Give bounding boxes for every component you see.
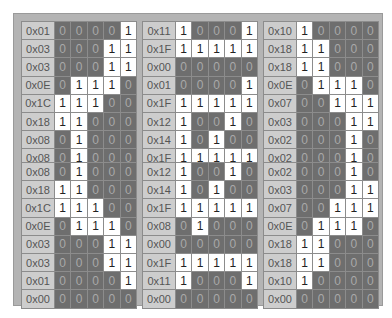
bit-cell: 1 <box>176 95 191 112</box>
bit-cell: 1 <box>242 40 257 57</box>
bit-cell: 1 <box>297 236 312 253</box>
bit-cell: 0 <box>330 131 345 148</box>
bit-cell: 0 <box>297 218 312 235</box>
bit-cell: 0 <box>55 77 70 94</box>
row-hex-label: 0x10 <box>264 272 296 289</box>
row-hex-label: 0x00 <box>264 290 296 307</box>
bit-cell: 0 <box>121 199 136 216</box>
bit-cell: 0 <box>242 113 257 130</box>
bit-cell: 1 <box>330 199 345 216</box>
bit-cell: 0 <box>88 254 103 271</box>
row-hex-label: 0x08 <box>22 131 54 148</box>
bit-cell: 1 <box>209 254 224 271</box>
row-hex-label: 0x12 <box>143 113 175 130</box>
bit-cell: 1 <box>71 113 86 130</box>
row-hex-label: 0x01 <box>143 77 175 94</box>
bit-cell: 0 <box>192 236 207 253</box>
bit-cell: 0 <box>225 77 240 94</box>
bit-cell: 0 <box>209 163 224 180</box>
bit-cell: 1 <box>192 254 207 271</box>
bit-cell: 0 <box>313 290 328 307</box>
bit-cell: 0 <box>363 131 378 148</box>
row-hex-label: 0x11 <box>143 272 175 289</box>
bit-cell: 0 <box>55 254 70 271</box>
bit-cell: 0 <box>297 77 312 94</box>
bit-cell: 1 <box>71 95 86 112</box>
bit-cell: 0 <box>176 236 191 253</box>
bit-cell: 0 <box>104 290 119 307</box>
bit-cell: 0 <box>55 272 70 289</box>
bit-cell: 1 <box>363 95 378 112</box>
bit-cell: 0 <box>192 163 207 180</box>
row-hex-label: 0x1F <box>143 254 175 271</box>
bit-cell: 0 <box>363 22 378 39</box>
bit-cell: 1 <box>330 77 345 94</box>
bit-cell: 0 <box>313 131 328 148</box>
row-hex-label: 0x08 <box>143 218 175 235</box>
bit-cell: 1 <box>192 218 207 235</box>
row-hex-label: 0x00 <box>143 58 175 75</box>
bit-cell: 1 <box>225 163 240 180</box>
bit-cell: 1 <box>71 163 86 180</box>
row-hex-label: 0x14 <box>143 131 175 148</box>
bit-cell: 0 <box>313 163 328 180</box>
bit-cell: 0 <box>330 113 345 130</box>
row-hex-label: 0x03 <box>22 254 54 271</box>
bit-cell: 1 <box>176 131 191 148</box>
bit-cell: 0 <box>363 163 378 180</box>
bit-cell: 1 <box>71 199 86 216</box>
bit-cell: 1 <box>297 58 312 75</box>
bit-cell: 1 <box>176 199 191 216</box>
glyph-panel-1: 0x01000010x03000110x03000110x0E011100x1C… <box>21 21 137 168</box>
bit-cell: 1 <box>176 181 191 198</box>
bit-cell: 0 <box>192 131 207 148</box>
row-hex-label: 0x00 <box>143 290 175 307</box>
bit-cell: 0 <box>209 113 224 130</box>
row-hex-label: 0x18 <box>264 236 296 253</box>
row-hex-label: 0x03 <box>22 236 54 253</box>
row-hex-label: 0x1F <box>143 95 175 112</box>
bit-cell: 0 <box>313 113 328 130</box>
bit-cell: 0 <box>104 272 119 289</box>
row-hex-label: 0x14 <box>143 181 175 198</box>
bit-cell: 0 <box>121 163 136 180</box>
bit-cell: 0 <box>71 22 86 39</box>
bit-cell: 0 <box>104 181 119 198</box>
bit-cell: 0 <box>313 22 328 39</box>
glyph-panel-3: 0x10100000x18110000x18110000x0E011100x07… <box>263 21 379 168</box>
bit-cell: 1 <box>363 181 378 198</box>
bit-cell: 0 <box>313 272 328 289</box>
bit-cell: 0 <box>225 58 240 75</box>
bit-cell: 0 <box>330 272 345 289</box>
bit-cell: 0 <box>346 254 361 271</box>
bit-cell: 0 <box>121 181 136 198</box>
bit-cell: 0 <box>71 236 86 253</box>
bit-cell: 0 <box>209 77 224 94</box>
bit-cell: 1 <box>121 236 136 253</box>
bit-cell: 1 <box>225 95 240 112</box>
bit-cell: 0 <box>346 40 361 57</box>
bit-cell: 0 <box>192 181 207 198</box>
bit-cell: 0 <box>55 131 70 148</box>
bit-cell: 0 <box>88 58 103 75</box>
row-hex-label: 0x02 <box>264 131 296 148</box>
bit-cell: 0 <box>363 254 378 271</box>
glyph-panel-5: 0x12100100x14101000x1F111110x08010000x00… <box>142 162 258 309</box>
bit-cell: 0 <box>176 58 191 75</box>
bit-cell: 0 <box>192 77 207 94</box>
bit-cell: 1 <box>104 77 119 94</box>
bit-cell: 0 <box>192 113 207 130</box>
bit-cell: 0 <box>297 163 312 180</box>
bit-cell: 0 <box>121 290 136 307</box>
row-hex-label: 0x1C <box>22 95 54 112</box>
bit-cell: 0 <box>363 40 378 57</box>
bit-cell: 1 <box>297 40 312 57</box>
bit-cell: 1 <box>121 22 136 39</box>
bit-cell: 0 <box>330 58 345 75</box>
bit-cell: 0 <box>330 163 345 180</box>
bit-cell: 1 <box>209 181 224 198</box>
bit-cell: 1 <box>104 236 119 253</box>
bit-cell: 0 <box>88 181 103 198</box>
bit-cell: 0 <box>55 236 70 253</box>
glyph-panel-6: 0x02000100x03000110x07001110x0E011100x18… <box>263 162 379 309</box>
